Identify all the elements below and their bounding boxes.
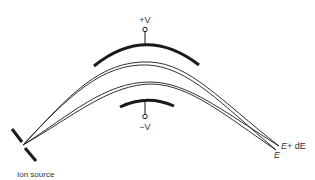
positive-voltage-label: +V: [139, 15, 150, 25]
ion-source-slit: [12, 129, 36, 161]
trajectory-lower-a: [23, 82, 279, 146]
energy-plus-de-label: E+ dE: [281, 141, 306, 151]
trajectory-upper-b: [23, 65, 276, 150]
outer-electrode: +V: [94, 15, 199, 66]
analyzer-diagram: +V −V Ion source E+ dE E: [0, 0, 315, 180]
ion-source-label: Ion source: [17, 170, 55, 179]
negative-terminal-icon: [143, 114, 147, 118]
inner-electrode: −V: [120, 100, 174, 132]
ion-trajectories: [23, 62, 279, 150]
trajectory-upper-a: [23, 62, 279, 146]
negative-voltage-label: −V: [139, 122, 150, 132]
positive-terminal-icon: [143, 27, 147, 31]
energy-label: E: [274, 150, 281, 160]
